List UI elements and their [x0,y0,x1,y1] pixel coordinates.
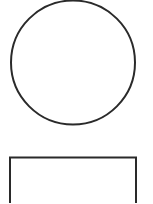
rectangle-shape [10,158,136,204]
diagram-canvas [0,0,153,203]
circle-shape [11,1,135,125]
